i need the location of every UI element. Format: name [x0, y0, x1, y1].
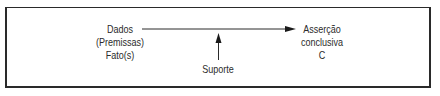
- conclusion-node-line: conclusiva: [289, 36, 355, 49]
- data-node-line: Fato(s): [87, 49, 153, 62]
- arrows: [0, 0, 440, 96]
- conclusion-node: Asserção conclusiva C: [289, 23, 355, 62]
- data-node: Dados (Premissas) Fato(s): [87, 23, 153, 62]
- support-node: Suporte: [193, 63, 242, 76]
- support-label: Suporte: [193, 63, 242, 76]
- conclusion-node-line: C: [289, 49, 355, 62]
- data-to-conclusion-arrow: [142, 26, 296, 32]
- support-arrow: [216, 33, 222, 60]
- conclusion-node-line: Asserção: [289, 23, 355, 36]
- data-node-line: Dados: [87, 23, 153, 36]
- data-node-line: (Premissas): [87, 36, 153, 49]
